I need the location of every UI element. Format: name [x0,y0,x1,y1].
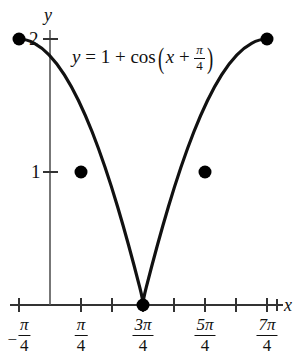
equation-arg-plus: + [179,46,190,67]
equation-equals: = [85,46,96,67]
x-tick-label-5pi-4: 5π4 [194,316,215,355]
y-axis-label: y [44,6,52,24]
point-mid-right [199,166,212,179]
equation-arg-fraction: π4 [194,43,205,73]
equation-lhs: y [72,46,80,67]
x-tick-label-3pi-4: 3π4 [132,316,153,355]
close-paren: ) [207,41,213,75]
x-tick-label-pi-4: π4 [75,316,88,355]
fraction: 3π4 [132,316,153,355]
equation-annotation: y = 1 + cos(x + π4) [72,42,215,76]
fraction: 7π4 [256,316,277,355]
y-tick-label-1: 1 [31,162,41,181]
point-mid-left [75,166,88,179]
point-left-max [13,33,26,46]
equation-one: 1 [101,46,111,67]
x-tick-label-neg-pi-4: −π4 [7,316,30,355]
x-axis-label: x [284,296,292,314]
minus-sign: − [7,331,18,348]
graph-figure: y x 2 1 −π4 π4 3π4 5π4 7π4 y = 1 + cos(x… [0,0,297,355]
x-tick-label-7pi-4: 7π4 [256,316,277,355]
fraction: 5π4 [194,316,215,355]
equation-plus: + [115,46,126,67]
point-right-max [261,33,274,46]
equation-argument: x + π4 [166,44,205,74]
open-paren: ( [158,41,164,75]
fraction: π4 [18,316,31,355]
point-minimum [137,299,150,312]
y-tick-label-2: 2 [29,29,39,48]
equation-arg-var: x [166,46,174,67]
fraction: π4 [75,316,88,355]
equation-cos: cos [130,46,155,67]
